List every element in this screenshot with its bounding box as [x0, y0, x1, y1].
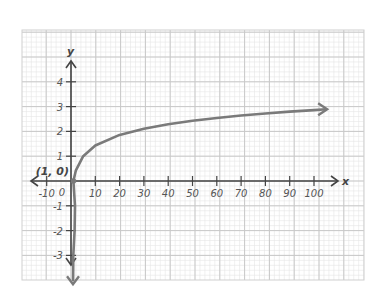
x-tick-label: -10 — [39, 188, 55, 199]
x-tick-label: 10 — [89, 188, 102, 199]
axes: xy — [31, 45, 350, 265]
x-tick-label: 30 — [138, 188, 151, 199]
y-tick-label: 4 — [57, 77, 63, 88]
y-tick-label: 2 — [57, 126, 63, 137]
x-tick-label: 80 — [259, 188, 272, 199]
x-tick-label: 70 — [235, 188, 248, 199]
y-tick-label: 3 — [57, 102, 63, 113]
y-tick-label: -2 — [53, 226, 63, 237]
log-graph: xy -101020304050607080901004321-1-2-30(1… — [0, 0, 385, 299]
x-tick-label: 90 — [283, 188, 296, 199]
point-1-0-marker — [71, 178, 77, 184]
point-annotation: (1, 0) — [36, 165, 69, 178]
y-axis-label: y — [67, 45, 75, 58]
y-tick-label: -3 — [53, 250, 63, 261]
y-tick-label: 1 — [57, 151, 63, 162]
x-tick-label: 100 — [304, 188, 323, 199]
x-tick-label: 60 — [210, 188, 223, 199]
x-tick-label: 20 — [113, 188, 126, 199]
x-tick-label: 40 — [162, 188, 175, 199]
x-axis-label: x — [341, 175, 350, 188]
y-tick-label: -1 — [53, 201, 63, 212]
origin-label: 0 — [59, 187, 65, 198]
tick-labels: -101020304050607080901004321-1-2-30(1, 0… — [36, 77, 324, 262]
x-tick-label: 50 — [186, 188, 199, 199]
